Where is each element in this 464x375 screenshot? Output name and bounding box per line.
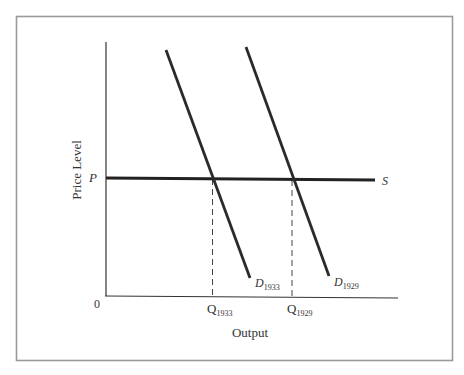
demand-curve-1929 [246,47,329,276]
supply-curve [106,178,375,180]
x-axis [105,296,398,298]
demand-curve-1933 [166,50,250,278]
demand-1929-main: D [333,275,343,289]
price-level-label: P [88,170,97,185]
x-axis-label: Output [232,325,269,340]
q1929-label: Q1929 [287,301,312,318]
q1933-sub: 1933 [216,309,232,318]
demand-1933-sub: 1933 [264,283,280,292]
y-axis-label: Price Level [69,140,84,200]
demand-1933-label: D1933 [254,276,280,292]
origin-label: 0 [94,297,100,311]
q1933-label: Q1933 [207,301,232,318]
supply-label: S [382,174,388,188]
demand-1933-main: D [254,276,264,290]
q1929-sub: 1929 [296,309,312,318]
demand-1929-sub: 1929 [343,282,359,291]
aggregate-demand-supply-diagram: Price Level P S D1933 D1929 0 Q1933 Q192… [0,0,464,375]
demand-1929-label: D1929 [333,275,359,291]
